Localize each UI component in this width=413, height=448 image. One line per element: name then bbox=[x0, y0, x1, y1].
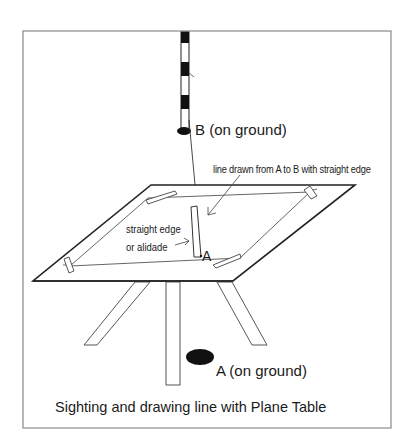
label-straight-edge: straight edge bbox=[126, 223, 181, 235]
tripod-leg-right bbox=[217, 282, 267, 345]
label-alidade: or alidade bbox=[126, 241, 168, 253]
figure-caption: Sighting and drawing line with Plane Tab… bbox=[55, 399, 326, 415]
ranging-rod-icon bbox=[181, 32, 194, 131]
label-station-a: A (on ground) bbox=[216, 362, 307, 379]
label-line-drawn: line drawn from A to B with straight edg… bbox=[213, 163, 371, 175]
tripod-leg-left bbox=[84, 282, 150, 345]
ground-mark-a-icon bbox=[186, 349, 214, 365]
label-point-a: A bbox=[202, 248, 211, 264]
ground-mark-b-icon bbox=[177, 127, 191, 135]
tripod-leg-center bbox=[166, 282, 180, 385]
label-station-b: B (on ground) bbox=[195, 121, 287, 138]
diagram-canvas bbox=[0, 0, 413, 448]
